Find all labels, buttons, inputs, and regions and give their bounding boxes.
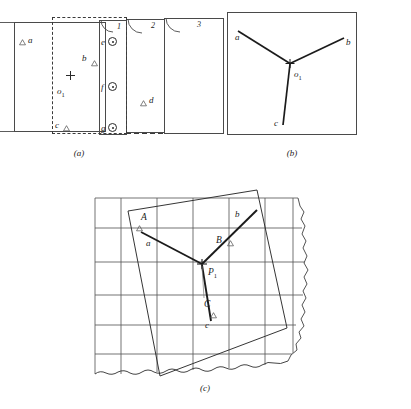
map-ray-a-label: a: [146, 239, 151, 248]
pass-point-e-label: e: [101, 38, 105, 47]
pass-point-g-circledot-icon: [108, 123, 117, 132]
caption-a: (a): [59, 148, 99, 158]
map-point-C-label: C: [204, 300, 210, 310]
principal-point-label: o1: [57, 87, 65, 98]
panel-a-overlapping-photos: 1 2 3 a b c d e f g o1 (a): [0, 0, 211, 172]
control-point-b-triangle-icon: [91, 60, 98, 66]
control-point-b-label: b: [82, 54, 87, 63]
map-grid-and-template: [0, 178, 411, 409]
overlap-dashed-extension: [0, 0, 211, 172]
panel-b-template: a b c o1 (b): [216, 0, 411, 172]
pass-point-g-label: g: [101, 124, 106, 133]
map-point-B-triangle-icon: [227, 240, 234, 246]
map-point-A-label: A: [141, 213, 147, 223]
template-center-label: o1: [294, 70, 302, 81]
map-point-B-label: B: [216, 236, 222, 246]
template-rays: [216, 0, 411, 172]
pass-point-e-circledot-icon: [108, 37, 117, 46]
map-point-A-triangle-icon: [136, 225, 143, 231]
pass-point-f-label: f: [101, 83, 104, 92]
control-point-c-label: c: [55, 121, 59, 130]
template-ray-a-label: a: [235, 33, 240, 42]
pass-point-f-circledot-icon: [108, 82, 117, 91]
principal-point-plus-icon: [66, 71, 75, 80]
control-point-a-triangle-icon: [19, 39, 26, 45]
map-center-label: P1: [208, 268, 217, 279]
photo-number-2: 2: [151, 21, 155, 30]
map-point-C-triangle-icon: [210, 312, 217, 318]
control-point-c-triangle-icon: [63, 125, 70, 131]
map-ray-c-label: c: [205, 321, 209, 330]
map-ray-b-label: b: [235, 210, 240, 219]
caption-b: (b): [272, 148, 312, 158]
control-point-a-label: a: [28, 36, 33, 45]
control-point-d-triangle-icon: [140, 100, 147, 106]
panel-c-map-fit: A a B b C c P1 (c): [0, 178, 411, 409]
photo-number-1: 1: [117, 22, 121, 31]
template-ray-b-label: b: [346, 38, 351, 47]
template-ray-c-label: c: [274, 119, 278, 128]
photo-number-3: 3: [197, 20, 201, 29]
control-point-d-label: d: [149, 96, 154, 105]
caption-c: (c): [185, 383, 225, 393]
